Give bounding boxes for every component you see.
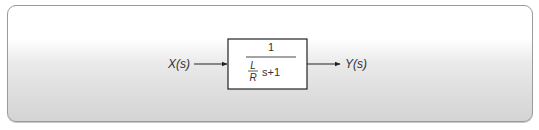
block-diagram: 1 L R s+1 X(s) Y(s) [0,0,539,130]
tf-s-plus-1: s+1 [262,66,280,78]
output-signal-label: Y(s) [345,57,367,71]
tf-L: L [250,60,256,71]
tf-numerator: 1 [268,41,274,53]
input-signal-label: X(s) [167,57,190,71]
tf-R: R [249,72,256,83]
